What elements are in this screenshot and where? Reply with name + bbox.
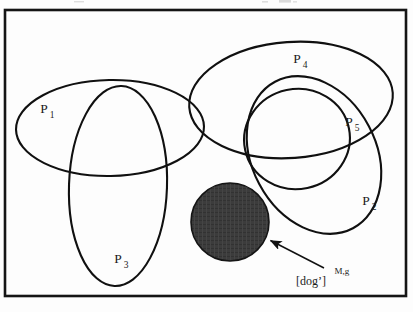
region-p3-subscript: 3: [124, 260, 129, 270]
region-p2-label: P: [362, 193, 370, 208]
region-p5-subscript: 5: [355, 123, 360, 133]
denotation-disc[interactable]: [191, 183, 269, 261]
figure-root: P 1 P 3 P 4 P 2 P 5: [0, 0, 413, 312]
region-p4-subscript: 4: [303, 60, 308, 70]
region-p1-subscript: 1: [50, 110, 55, 120]
region-p4-label: P: [293, 51, 301, 66]
annotation-text: [dog’]: [296, 274, 326, 288]
annotation-superscript: M,g: [335, 266, 350, 276]
region-p2-subscript: 2: [372, 202, 377, 212]
region-p5-label: P: [345, 114, 353, 129]
region-p1-label: P: [40, 101, 48, 116]
region-p3-label: P: [114, 251, 122, 266]
euler-diagram-canvas: P 1 P 3 P 4 P 2 P 5: [0, 0, 413, 312]
